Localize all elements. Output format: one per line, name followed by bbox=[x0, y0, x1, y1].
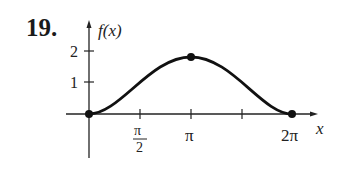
point-origin bbox=[85, 110, 93, 118]
x-tick-label-pi-half-numerator: π bbox=[134, 123, 141, 138]
point-two-pi bbox=[288, 110, 296, 118]
x-tick-label-pi: π bbox=[185, 126, 194, 145]
x-axis-label: x bbox=[315, 119, 324, 138]
y-tick-label-1: 1 bbox=[70, 74, 78, 91]
y-tick-label-2: 2 bbox=[70, 43, 78, 60]
function-graph: f(x) 2 1 π 2 π 2π x bbox=[0, 0, 340, 173]
x-axis-arrow-icon bbox=[310, 112, 318, 117]
point-max bbox=[187, 53, 195, 61]
function-curve bbox=[89, 57, 292, 114]
x-tick-label-pi-half-denominator: 2 bbox=[136, 140, 143, 155]
y-axis-label: f(x) bbox=[98, 21, 122, 40]
y-axis-arrow-icon bbox=[87, 20, 92, 28]
x-tick-label-two-pi: 2π bbox=[281, 126, 299, 145]
